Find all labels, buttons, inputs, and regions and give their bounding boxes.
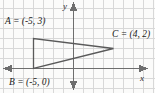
x-axis-arrow-left	[3, 65, 12, 73]
y-axis-label: y	[63, 2, 67, 11]
point-label-a: A = (-5, 3)	[5, 17, 46, 27]
y-axis-arrow-up	[70, 2, 78, 11]
y-axis	[70, 2, 78, 90]
point-label-b: B = (-5, 0)	[9, 78, 50, 88]
coordinate-plane-figure: A = (-5, 3) B = (-5, 0) C = (4, 2) x y	[0, 0, 155, 93]
point-label-c: C = (4, 2)	[112, 30, 150, 40]
x-axis-label: x	[140, 74, 144, 83]
x-axis	[3, 65, 148, 73]
